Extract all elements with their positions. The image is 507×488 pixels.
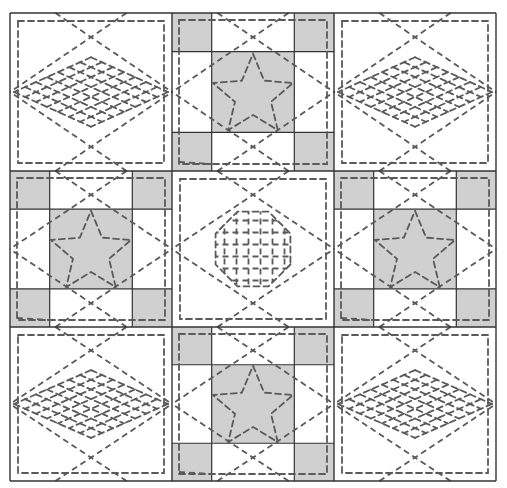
block-octagon-grid-r1c1: [172, 171, 334, 327]
gray-patch: [132, 171, 172, 209]
block-diamond-crosshatch-r2c0: [10, 327, 172, 481]
quilt-diagram: [0, 0, 507, 488]
gray-patch: [172, 443, 212, 481]
gray-patch: [172, 13, 212, 52]
gray-patch: [10, 171, 50, 209]
gray-patch: [294, 13, 334, 52]
block-diamond-crosshatch-r2c2: [334, 327, 496, 481]
gray-patch: [456, 289, 496, 327]
gray-patch: [334, 289, 374, 327]
block-star-nine-patch-r0c1: [172, 13, 334, 171]
gray-patch: [172, 327, 212, 365]
block-star-nine-patch-r1c2: [334, 171, 496, 327]
block-star-nine-patch-r2c1: [172, 327, 334, 481]
gray-patch: [294, 132, 334, 171]
block-star-nine-patch-r1c0: [10, 171, 172, 327]
gray-patch: [334, 171, 374, 209]
gray-patch: [172, 132, 212, 171]
gray-patch: [132, 289, 172, 327]
block-diamond-crosshatch-r0c2: [334, 13, 496, 171]
gray-patch: [294, 327, 334, 365]
gray-patch: [10, 289, 50, 327]
gray-patch: [294, 443, 334, 481]
block-diamond-crosshatch-r0c0: [10, 13, 172, 171]
gray-patch: [456, 171, 496, 209]
